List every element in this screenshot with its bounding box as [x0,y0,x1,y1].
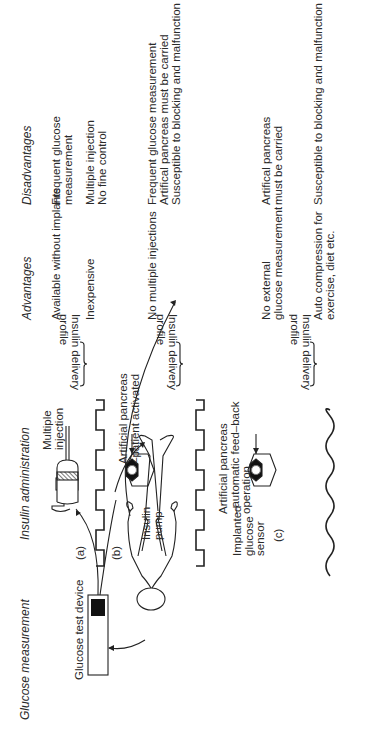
label-delivery-profile-2: Insulin delivery profile [155,314,178,390]
label-insulin-pump: Insulin pump [141,507,164,540]
square-wave-profile-1 [96,400,104,566]
smooth-wave-profile [326,409,334,576]
insulin-delivery-diagram: Glucose measurement Insulin administrati… [0,0,385,756]
label-path-a: (a) [74,546,86,560]
row1-advantages: Available without implants Inexpensive [50,188,96,320]
row3-disadvantages: Artifical pancreas must be carried Susce… [260,3,324,205]
square-wave-profile-2 [196,400,204,566]
label-delivery-profile-3: Insulin delivery profile [289,314,312,390]
label-ap-patient-activated: Artificial pancreas –patient activated [118,373,141,464]
row2-disadvantages: Frequent glucose measurement Artifical p… [146,3,182,205]
row2-advantages: No multiple injections [146,211,158,320]
row3-advantages: No external glucose measurement Auto com… [260,207,336,320]
row1-disadvantages: Frequent glucose measurement Multiple in… [50,116,108,205]
label-delivery-profile-1: Insulin delivery profile [58,314,81,390]
glucose-test-device-icon [88,595,108,675]
label-multiple-injection: Multiple injection [42,408,65,450]
label-glucose-test-device: Glucose test device [73,580,85,680]
label-path-b: (b) [110,546,122,560]
label-path-c: (c) [272,529,284,542]
label-ap-feedback: Artificial pancreas –automatic feed–back… [218,401,253,514]
